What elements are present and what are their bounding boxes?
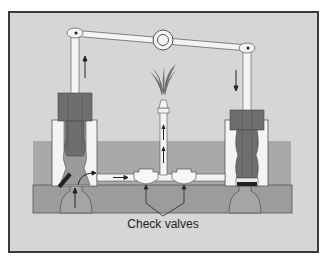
beam-pivot — [153, 30, 173, 50]
left-beam-joint — [67, 28, 83, 38]
right-rod-down-arrow — [234, 70, 238, 91]
right-beam-joint — [239, 43, 255, 53]
left-rod-up-arrow — [83, 56, 87, 78]
right-flap-valve — [237, 182, 257, 186]
left-piston-rod — [71, 35, 79, 93]
check-valves-label: Check valves — [0, 217, 326, 231]
right-piston-rod — [243, 50, 251, 110]
fountain-spray — [150, 64, 176, 96]
